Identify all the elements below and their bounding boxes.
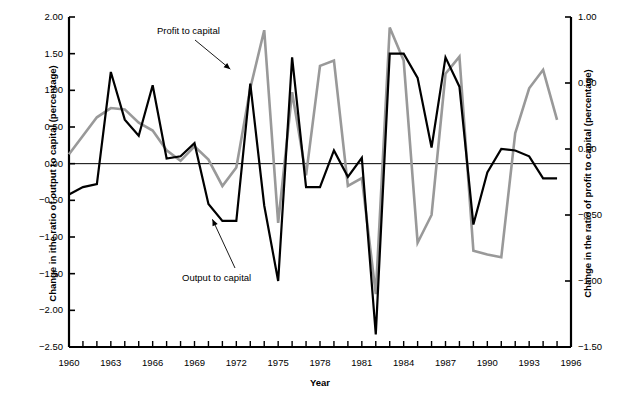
series-line-profit-to-capital xyxy=(69,28,557,295)
chart-container: Change in ithe ratio of output to capita… xyxy=(0,0,640,397)
series-line-output-to-capital xyxy=(69,54,557,335)
annotation-arrow-profit xyxy=(195,40,230,69)
annotation-arrow-output xyxy=(212,219,235,268)
annotation-arrow-profit-head xyxy=(224,63,231,69)
series-layer xyxy=(69,28,557,335)
plot-area xyxy=(0,0,640,397)
